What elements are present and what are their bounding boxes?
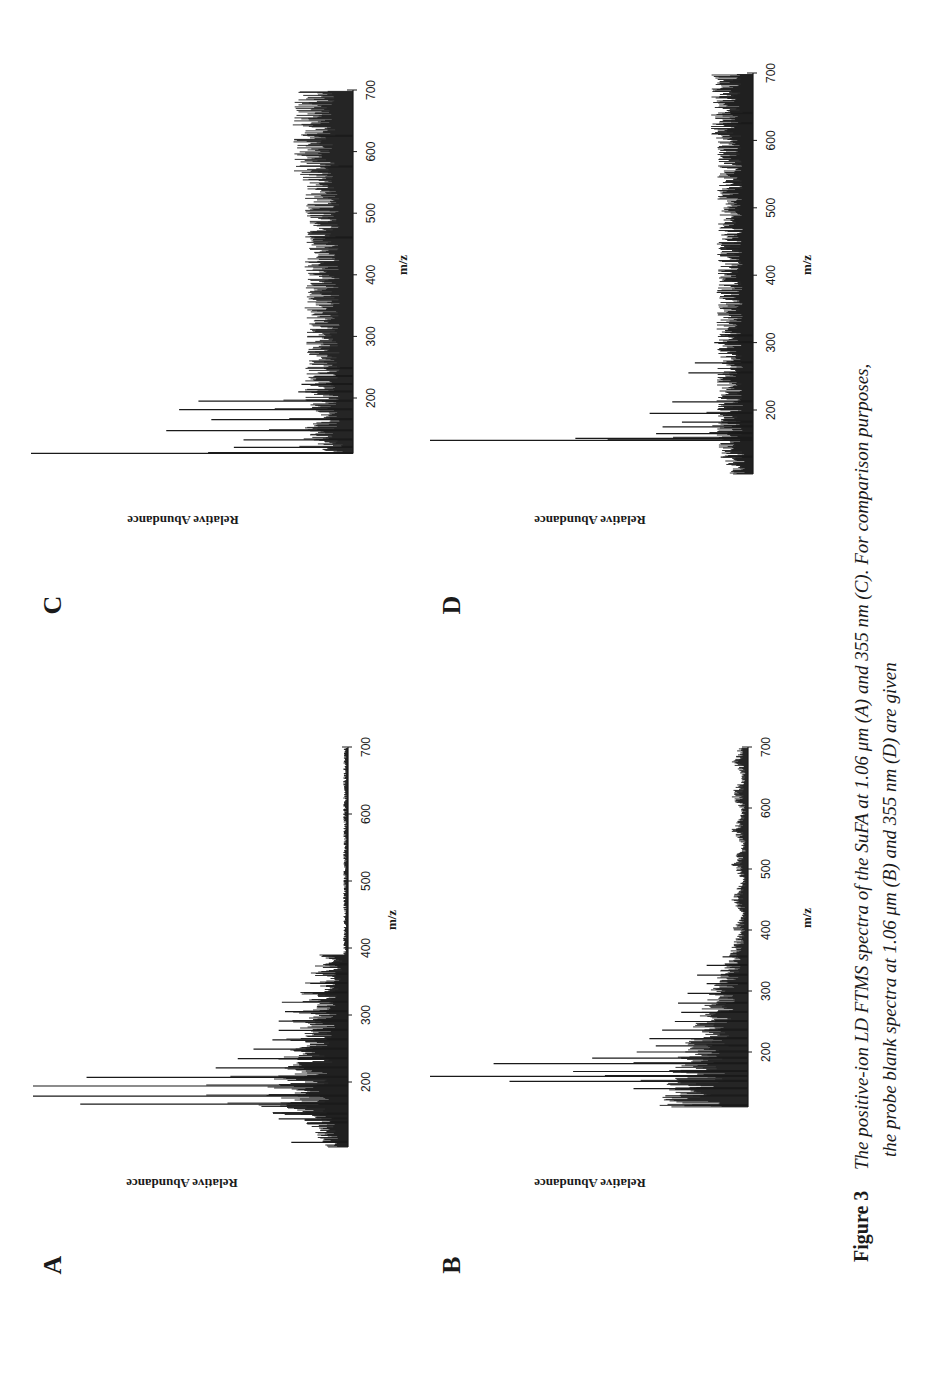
x-axis-label-d: m/z bbox=[799, 255, 814, 275]
x-axis-label-c: m/z bbox=[395, 255, 410, 275]
tick-label: 500 bbox=[359, 871, 373, 891]
y-axis-label-d: Relative Abundance bbox=[534, 513, 646, 528]
spectrum-c-peaks bbox=[31, 91, 353, 453]
spectrum-a-peaks bbox=[33, 749, 348, 1148]
tick-label: 500 bbox=[759, 859, 773, 879]
tick-label: 400 bbox=[364, 264, 378, 284]
panel-a: 200300400500600700 A Relative Abundance … bbox=[33, 737, 399, 1275]
y-axis-label-a: Relative Abundance bbox=[126, 1176, 238, 1191]
x-axis-label-b: m/z bbox=[799, 908, 814, 928]
figure-canvas: 200300400500600700 A Relative Abundance … bbox=[0, 0, 942, 1391]
panel-b: 200300400500600700 B Relative Abundance … bbox=[430, 737, 814, 1274]
tick-label: 400 bbox=[759, 920, 773, 940]
tick-label: 500 bbox=[764, 197, 778, 217]
tick-label: 300 bbox=[759, 981, 773, 1001]
figure-number: Figure 3 bbox=[850, 1191, 873, 1262]
tick-label: 700 bbox=[759, 737, 773, 757]
tick-label: 200 bbox=[759, 1042, 773, 1062]
tick-label: 600 bbox=[364, 141, 378, 161]
tick-label: 300 bbox=[764, 332, 778, 352]
caption-line-2: the probe blank spectra at 1.06 μm (B) a… bbox=[879, 662, 901, 1157]
tick-label: 500 bbox=[364, 203, 378, 223]
figure-caption: Figure 3 The positive-ion LD FTMS spectr… bbox=[850, 364, 901, 1262]
panel-letter-b: B bbox=[437, 1256, 466, 1273]
tick-label: 200 bbox=[364, 388, 378, 408]
tick-label: 600 bbox=[359, 804, 373, 824]
panel-letter-d: D bbox=[437, 596, 466, 615]
tick-label: 300 bbox=[359, 1005, 373, 1025]
tick-label: 700 bbox=[359, 737, 373, 757]
y-axis-label-c: Relative Abundance bbox=[127, 513, 239, 528]
tick-label: 700 bbox=[364, 80, 378, 100]
tick-label: 300 bbox=[364, 326, 378, 346]
spectrum-b-peaks bbox=[430, 748, 748, 1107]
tick-label: 600 bbox=[759, 798, 773, 818]
panel-c: 200300400500600700 C Relative Abundance … bbox=[31, 80, 410, 615]
tick-label: 200 bbox=[764, 400, 778, 420]
panel-letter-c: C bbox=[38, 596, 67, 615]
x-axis-label-a: m/z bbox=[384, 910, 399, 930]
tick-label: 400 bbox=[764, 265, 778, 285]
tick-label: 200 bbox=[359, 1072, 373, 1092]
y-axis-label-b: Relative Abundance bbox=[534, 1176, 646, 1191]
spectrum-d-peaks bbox=[430, 75, 753, 475]
figure-page: 200300400500600700 A Relative Abundance … bbox=[0, 0, 942, 1391]
caption-line-1: The positive-ion LD FTMS spectra of the … bbox=[851, 364, 873, 1170]
panel-d: 200300400500600700 D Relative Abundance … bbox=[430, 63, 814, 615]
tick-label: 400 bbox=[359, 938, 373, 958]
panel-letter-a: A bbox=[38, 1255, 67, 1274]
tick-label: 600 bbox=[764, 130, 778, 150]
tick-label: 700 bbox=[764, 63, 778, 83]
